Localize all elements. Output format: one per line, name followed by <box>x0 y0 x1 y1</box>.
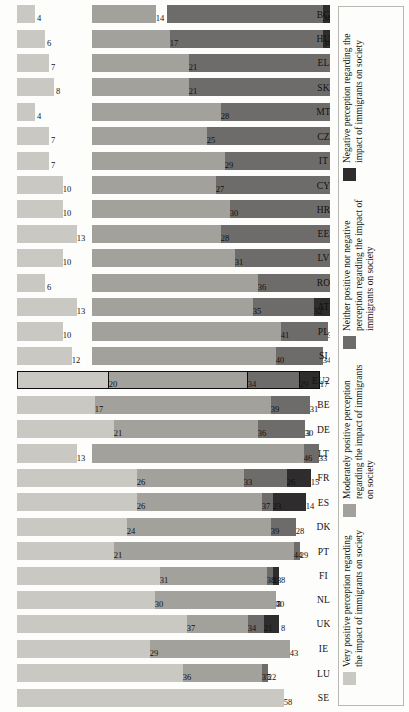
bar-segments: 16443010 <box>2 197 317 221</box>
bar-group: 15263326FR <box>0 466 330 490</box>
category-label: BG <box>317 8 330 21</box>
bar-value-label: 21 <box>113 551 122 561</box>
bar-segments: 8233831 <box>2 563 317 587</box>
bar-value-label: 29 <box>150 649 159 659</box>
bar-segments: 2038366 <box>2 270 317 294</box>
bar-segment: 21 <box>17 420 92 438</box>
legend-swatch-icon <box>343 168 356 181</box>
category-label: DE <box>317 423 330 436</box>
bar-segment: 6 <box>17 30 92 48</box>
bar-segments: 8334613 <box>2 441 317 465</box>
category-label: ES <box>318 496 330 509</box>
bar-segments: 14354110 <box>2 319 317 343</box>
bar-value-label: 7 <box>51 63 55 73</box>
bar-value-label: 21 <box>188 87 197 97</box>
category-label: MT <box>316 105 330 118</box>
bar-segment: 41 <box>92 322 167 340</box>
bar-group: 20323513AT <box>0 295 330 319</box>
bar-value-label: 41 <box>280 332 289 342</box>
bar-segment: 13 <box>17 225 92 243</box>
legend-items: Negative perception regarding the impact… <box>339 7 403 705</box>
bar-segment: 28 <box>92 103 167 121</box>
bar-group: 2444284MT <box>0 100 330 124</box>
bar-value-label: 30 <box>305 429 314 439</box>
bar-group: 8213437UK <box>0 612 330 636</box>
bar <box>17 274 45 292</box>
bar-segments: 20323513 <box>2 295 317 319</box>
bar <box>92 225 221 243</box>
bar-group: 16443010HR <box>0 197 330 221</box>
bar <box>92 396 271 414</box>
bar-group: 2038366RO <box>0 270 330 294</box>
bar-segment: 10 <box>17 200 92 218</box>
bar-value-label: 33 <box>244 478 253 488</box>
bar <box>17 225 77 243</box>
bar-segments: 2737297 <box>2 148 317 172</box>
bar-segment: 25 <box>92 127 167 145</box>
bar-segment: 36 <box>92 274 167 292</box>
bar <box>17 518 127 536</box>
bar-value-label: 17 <box>95 405 104 415</box>
bar <box>92 347 276 365</box>
category-label: FI <box>319 569 328 582</box>
bar <box>17 542 114 560</box>
bar-segment: 4 <box>17 5 92 23</box>
bar-value-label: 28 <box>296 527 305 537</box>
bar-segments: 6294421 <box>2 539 317 563</box>
bar-value-label: 13 <box>77 307 86 317</box>
bar-value-label: 4 <box>37 112 41 122</box>
legend-item: Negative perception regarding the impact… <box>339 13 365 181</box>
bar <box>167 5 323 23</box>
bar <box>17 127 49 145</box>
bar-segment: 21 <box>92 78 167 96</box>
bar-segment: 36 <box>17 664 92 682</box>
category-label: EE <box>317 227 329 240</box>
bar <box>92 78 189 96</box>
bar <box>17 78 54 96</box>
category-label: IT <box>319 154 328 167</box>
bar-value-label: 36 <box>257 283 266 293</box>
bar-segments: 2444284 <box>2 100 317 124</box>
grouped-bar-chart: 4834144BG4334176HU3636217EL3041218SK2444… <box>0 0 330 712</box>
bar-value-label: 34 <box>248 380 257 390</box>
bar <box>17 567 160 585</box>
bar-segments: 13303621 <box>2 417 317 441</box>
bar-group: 9283924DK <box>0 515 330 539</box>
bar-group: 7234030NL <box>0 588 330 612</box>
bar-segment: 30 <box>92 200 167 218</box>
bar-value-label: 43 <box>290 649 299 659</box>
category-label: IE <box>319 642 328 655</box>
bar <box>17 54 49 72</box>
legend-swatch-icon <box>343 504 356 517</box>
bar-segment: 29 <box>17 640 92 658</box>
bar-segment: 10 <box>17 176 92 194</box>
bar-group: 2741257CZ <box>0 124 330 148</box>
bar-segments: 14344012 <box>2 344 317 368</box>
bar <box>92 445 304 463</box>
bar-value-label: 10 <box>63 209 72 219</box>
bar <box>92 274 258 292</box>
bar-segment: 26 <box>17 493 92 511</box>
bar <box>17 640 150 658</box>
bar-segment: 27 <box>92 176 167 194</box>
bar-segments: 17293420 <box>2 368 317 392</box>
category-label: BE <box>317 398 330 411</box>
bar-value-label: 13 <box>77 454 86 464</box>
bar-segment: 20 <box>17 371 92 389</box>
bar-value-label: 23 <box>273 502 282 512</box>
bar-segments: 3636217 <box>2 51 317 75</box>
bar-value-label: 28 <box>221 112 230 122</box>
bar-segments: 22373110 <box>2 246 317 270</box>
category-label: LU <box>317 667 330 680</box>
bar-segments: 4112758 <box>2 685 317 709</box>
bar-value-label: 4 <box>37 14 41 24</box>
bar-segment: 4 <box>17 103 92 121</box>
bar-segment: 13 <box>17 445 92 463</box>
bar-value-label: 40 <box>276 600 285 610</box>
category-label: SI <box>319 349 328 362</box>
bar-group: 14233726ES <box>0 490 330 514</box>
bar-group: 3636217EL <box>0 51 330 75</box>
category-label: PT <box>318 545 330 558</box>
bar-value-label: 26 <box>136 502 145 512</box>
category-label: FR <box>317 471 329 484</box>
